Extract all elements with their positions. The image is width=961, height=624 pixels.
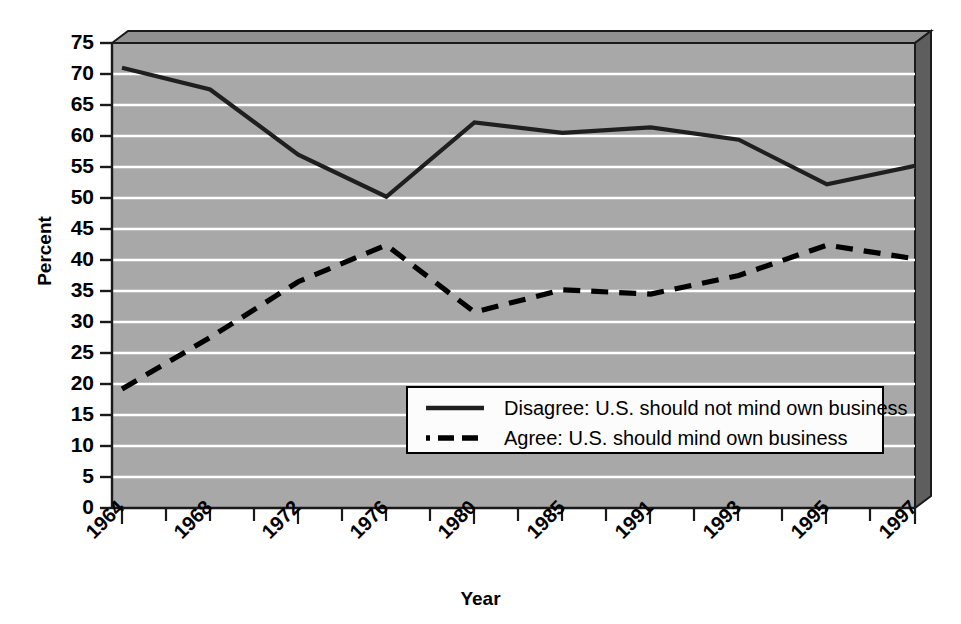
x-tick-1997: 1997 <box>875 497 921 543</box>
legend-entry-agree: Agree: U.S. should mind own business <box>408 422 882 454</box>
line-chart: 75 70 65 60 55 50 45 40 35 30 25 20 15 1… <box>0 0 961 624</box>
x-tick-1993: 1993 <box>699 497 745 543</box>
x-tick-1980: 1980 <box>434 497 480 543</box>
x-tick-1976: 1976 <box>346 497 392 543</box>
legend-label-agree: Agree: U.S. should mind own business <box>504 426 848 450</box>
x-tick-1968: 1968 <box>170 497 216 543</box>
x-axis-title: Year <box>0 588 961 610</box>
x-tick-1964: 1964 <box>82 497 128 543</box>
x-tick-1991: 1991 <box>611 497 657 543</box>
legend-entry-disagree: Disagree: U.S. should not mind own busin… <box>408 392 882 424</box>
legend: Disagree: U.S. should not mind own busin… <box>406 386 884 454</box>
legend-swatch-dashed <box>424 422 486 454</box>
legend-swatch-solid <box>424 392 486 424</box>
y-axis-title: Percent <box>34 216 56 286</box>
x-tick-1985: 1985 <box>523 497 569 543</box>
x-axis-tick-labels: 1964 1968 1972 1976 1980 1985 1991 1993 … <box>0 0 961 624</box>
x-tick-1972: 1972 <box>258 497 304 543</box>
x-tick-1995: 1995 <box>787 497 833 543</box>
legend-label-disagree: Disagree: U.S. should not mind own busin… <box>504 396 908 420</box>
